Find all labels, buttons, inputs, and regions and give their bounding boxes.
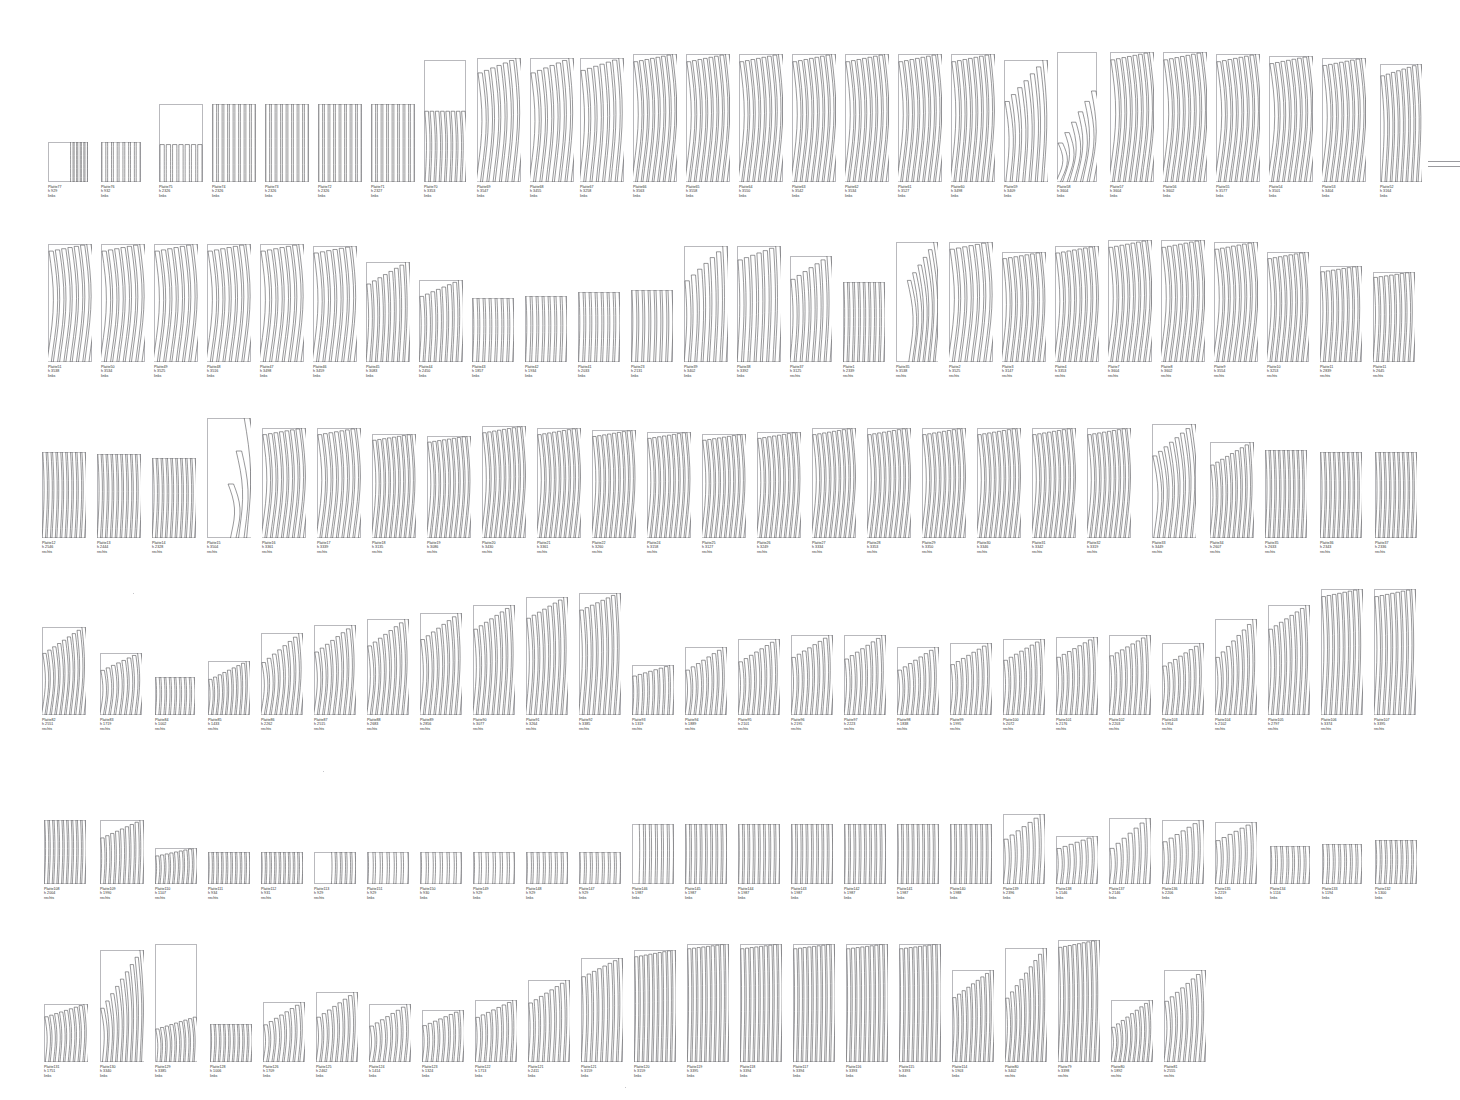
part-platte34[interactable] xyxy=(1210,442,1254,538)
part-platte122[interactable] xyxy=(475,1000,517,1062)
part-platte128[interactable] xyxy=(210,1024,252,1062)
part-platte32[interactable] xyxy=(1087,428,1131,538)
part-platte114[interactable] xyxy=(952,970,994,1062)
part-platte103[interactable] xyxy=(1162,643,1204,715)
part-platte124[interactable] xyxy=(369,1004,411,1062)
part-platte24[interactable] xyxy=(647,432,691,538)
part-platte88[interactable] xyxy=(367,619,409,715)
part-platte113[interactable] xyxy=(314,852,356,884)
part-platte107[interactable] xyxy=(1374,589,1416,715)
part-platte55[interactable] xyxy=(1216,54,1260,182)
part-platte37[interactable] xyxy=(1375,452,1417,538)
part-platte85[interactable] xyxy=(208,661,250,715)
part-platte25[interactable] xyxy=(702,434,746,538)
part-platte30[interactable] xyxy=(977,428,1021,538)
part-platte118[interactable] xyxy=(740,944,782,1062)
part-platte13[interactable] xyxy=(97,454,141,538)
part-platte76[interactable] xyxy=(101,142,141,182)
part-platte137[interactable] xyxy=(1109,818,1151,884)
part-platte91[interactable] xyxy=(526,597,568,715)
part-platte142[interactable] xyxy=(844,824,886,884)
part-platte96[interactable] xyxy=(791,635,833,715)
part-platte119[interactable] xyxy=(687,944,729,1062)
part-platte20[interactable] xyxy=(482,426,526,538)
part-platte72[interactable] xyxy=(318,104,362,182)
part-platte140[interactable] xyxy=(950,824,992,884)
part-platte117[interactable] xyxy=(793,944,835,1062)
part-platte56[interactable] xyxy=(1163,52,1207,182)
part-platte10[interactable] xyxy=(1267,252,1309,362)
part-platte28[interactable] xyxy=(867,428,911,538)
part-platte111[interactable] xyxy=(208,852,250,884)
part-platte63[interactable] xyxy=(792,54,836,182)
part-platte97[interactable] xyxy=(844,635,886,715)
part-platte29[interactable] xyxy=(922,428,966,538)
part-platte23[interactable] xyxy=(631,290,673,362)
part-platte46[interactable] xyxy=(313,246,357,362)
part-platte77[interactable] xyxy=(48,142,88,182)
part-platte121[interactable] xyxy=(581,958,623,1062)
part-platte60[interactable] xyxy=(951,54,995,182)
part-platte105[interactable] xyxy=(1268,605,1310,715)
part-platte98[interactable] xyxy=(897,647,939,715)
part-platte26[interactable] xyxy=(757,432,801,538)
part-platte15[interactable] xyxy=(207,418,251,538)
part-platte54[interactable] xyxy=(1269,56,1313,182)
part-platte11[interactable] xyxy=(1320,266,1362,362)
part-platte148[interactable] xyxy=(526,852,568,884)
part-platte79[interactable] xyxy=(1058,940,1100,1062)
part-platte47[interactable] xyxy=(260,244,304,362)
part-platte112[interactable] xyxy=(261,852,303,884)
part-platte7[interactable] xyxy=(1108,240,1152,362)
part-platte58[interactable] xyxy=(1057,52,1097,182)
part-platte43[interactable] xyxy=(472,298,514,362)
part-platte61[interactable] xyxy=(898,54,942,182)
part-platte101[interactable] xyxy=(1056,637,1098,715)
part-platte68[interactable] xyxy=(530,58,574,182)
part-platte66[interactable] xyxy=(633,54,677,182)
part-platte71[interactable] xyxy=(371,104,415,182)
part-platte93[interactable] xyxy=(632,665,674,715)
part-platte22[interactable] xyxy=(592,430,636,538)
part-platte19[interactable] xyxy=(427,436,471,538)
part-platte9[interactable] xyxy=(1214,242,1258,362)
part-platte110[interactable] xyxy=(155,848,197,884)
part-platte1[interactable] xyxy=(843,282,885,362)
part-platte99[interactable] xyxy=(950,643,992,715)
part-platte150[interactable] xyxy=(420,852,462,884)
part-platte141[interactable] xyxy=(897,824,939,884)
part-platte74[interactable] xyxy=(212,104,256,182)
part-platte94[interactable] xyxy=(685,647,727,715)
part-platte90[interactable] xyxy=(473,605,515,715)
part-platte27[interactable] xyxy=(812,428,856,538)
part-platte80[interactable] xyxy=(1111,1000,1153,1062)
part-platte8[interactable] xyxy=(1161,240,1205,362)
part-platte51[interactable] xyxy=(48,244,92,362)
part-platte36[interactable] xyxy=(1320,452,1362,538)
part-platte81[interactable] xyxy=(1164,970,1206,1062)
part-platte17[interactable] xyxy=(317,428,361,538)
part-platte108[interactable] xyxy=(44,820,86,884)
part-platte50[interactable] xyxy=(101,244,145,362)
part-platte35[interactable] xyxy=(896,242,938,362)
part-platte104[interactable] xyxy=(1215,619,1257,715)
part-platte129[interactable] xyxy=(155,944,197,1062)
part-platte130[interactable] xyxy=(100,950,144,1062)
part-platte144[interactable] xyxy=(738,824,780,884)
part-platte39[interactable] xyxy=(684,246,728,362)
part-platte136[interactable] xyxy=(1162,820,1204,884)
part-platte35[interactable] xyxy=(1265,450,1307,538)
part-platte109[interactable] xyxy=(100,820,144,884)
part-platte67[interactable] xyxy=(580,58,624,182)
part-platte16[interactable] xyxy=(262,428,306,538)
part-platte143[interactable] xyxy=(791,824,833,884)
part-platte138[interactable] xyxy=(1056,836,1098,884)
part-platte133[interactable] xyxy=(1322,844,1362,884)
part-platte14[interactable] xyxy=(152,458,196,538)
part-platte86[interactable] xyxy=(261,633,303,715)
part-platte42[interactable] xyxy=(525,296,567,362)
part-platte149[interactable] xyxy=(473,852,515,884)
part-platte132[interactable] xyxy=(1375,840,1417,884)
part-platte4[interactable] xyxy=(1055,246,1099,362)
part-platte69[interactable] xyxy=(477,58,521,182)
